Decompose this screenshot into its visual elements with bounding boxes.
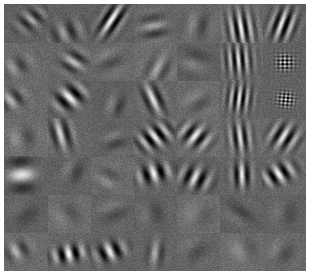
filter-patch: [133, 80, 176, 118]
filter-patch: [220, 156, 263, 194]
filter-patch: [220, 42, 263, 80]
filter-patch: [263, 156, 306, 194]
filter-patch: [4, 233, 47, 271]
filter-patch: [133, 42, 176, 80]
filter-patch: [90, 195, 133, 233]
filter-patch: [220, 233, 263, 271]
filter-patch: [47, 80, 90, 118]
filter-patch: [263, 80, 306, 118]
filter-patch: [4, 118, 47, 156]
filter-patch: [133, 233, 176, 271]
filter-patch: [176, 80, 219, 118]
filter-patch: [176, 42, 219, 80]
filter-patch: [176, 118, 219, 156]
filter-patch: [47, 118, 90, 156]
filter-patch: [263, 42, 306, 80]
filter-patch: [220, 4, 263, 42]
filter-patch: [263, 195, 306, 233]
filter-patch: [263, 233, 306, 271]
filter-patch: [47, 156, 90, 194]
filter-patch: [220, 80, 263, 118]
filter-patch: [47, 42, 90, 80]
filter-patch: [133, 195, 176, 233]
filter-patch: [220, 195, 263, 233]
filter-patch: [90, 233, 133, 271]
filter-patch: [90, 118, 133, 156]
filter-patch: [133, 156, 176, 194]
filter-patch: [4, 80, 47, 118]
filter-patch: [263, 118, 306, 156]
filter-patch: [176, 156, 219, 194]
filter-patch: [133, 4, 176, 42]
filter-patch: [4, 4, 47, 42]
filter-patch: [220, 118, 263, 156]
filter-patch: [4, 42, 47, 80]
filter-patch: [90, 42, 133, 80]
filter-patch: [90, 80, 133, 118]
filter-patch: [176, 4, 219, 42]
filter-patch: [47, 233, 90, 271]
patch-grid-canvas: [4, 4, 306, 271]
filter-patch: [4, 195, 47, 233]
filter-patch: [263, 4, 306, 42]
filter-patch: [176, 195, 219, 233]
gabor-dictionary-figure: [0, 0, 310, 276]
filter-patch: [4, 156, 47, 194]
filter-patch: [133, 118, 176, 156]
filter-patch: [90, 156, 133, 194]
filter-patch: [47, 195, 90, 233]
filter-patch: [176, 233, 219, 271]
filter-patch: [90, 4, 133, 42]
filter-patch: [47, 4, 90, 42]
patch-grid: [4, 4, 306, 271]
